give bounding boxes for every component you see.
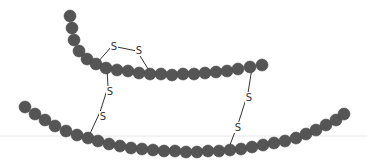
amino-acid-bead	[111, 64, 123, 76]
amino-acid-bead	[213, 145, 225, 157]
amino-acid-bead	[191, 146, 203, 158]
amino-acid-bead	[136, 143, 148, 155]
amino-acid-bead	[188, 68, 200, 80]
amino-acid-bead	[202, 145, 214, 157]
disulfide-diagram: SSSSSS	[0, 0, 367, 160]
amino-acid-bead	[246, 141, 258, 153]
upper-chain	[64, 10, 268, 81]
amino-acid-bead	[279, 135, 291, 147]
amino-acid-bead	[199, 67, 211, 79]
amino-acid-bead	[122, 65, 134, 77]
sulfur-label: S	[136, 45, 142, 56]
amino-acid-bead	[338, 108, 350, 120]
amino-acid-bead	[232, 63, 244, 75]
amino-acid-bead	[100, 62, 112, 74]
amino-acid-bead	[235, 143, 247, 155]
amino-acid-bead	[180, 146, 192, 158]
amino-acid-bead	[144, 68, 156, 80]
sulfur-label: S	[235, 122, 241, 133]
amino-acid-bead	[166, 69, 178, 81]
amino-acid-bead	[177, 68, 189, 80]
amino-acid-bead	[125, 142, 137, 154]
disulfide-bonds	[88, 46, 252, 150]
amino-acid-bead	[244, 61, 256, 73]
amino-acid-bead	[114, 140, 126, 152]
amino-acid-bead	[60, 125, 72, 137]
amino-acid-bead	[256, 59, 268, 71]
sulfur-label: S	[107, 86, 113, 97]
amino-acid-bead	[68, 34, 80, 46]
left-interchain-bridge	[88, 69, 108, 138]
amino-acid-bead	[169, 145, 181, 157]
amino-acid-bead	[224, 144, 236, 156]
amino-acid-bead	[268, 137, 280, 149]
amino-acid-bead	[147, 144, 159, 156]
sulfur-labels: SSSSSS	[99, 41, 253, 133]
amino-acid-bead	[92, 135, 104, 147]
amino-acid-bead	[19, 101, 31, 113]
amino-acid-bead	[210, 66, 222, 78]
amino-acid-bead	[155, 68, 167, 80]
amino-acid-bead	[257, 139, 269, 151]
right-interchain-bridge	[228, 68, 252, 150]
sulfur-label: S	[100, 111, 106, 122]
sulfur-label: S	[246, 92, 252, 103]
amino-acid-bead	[64, 10, 76, 22]
amino-acid-bead	[221, 65, 233, 77]
amino-acid-bead	[66, 22, 78, 34]
amino-acid-bead	[71, 129, 83, 141]
sulfur-label: S	[111, 41, 117, 52]
amino-acid-bead	[133, 67, 145, 79]
amino-acid-bead	[158, 145, 170, 157]
amino-acid-bead	[49, 120, 61, 132]
amino-acid-bead	[103, 138, 115, 150]
lower-chain	[19, 101, 350, 158]
